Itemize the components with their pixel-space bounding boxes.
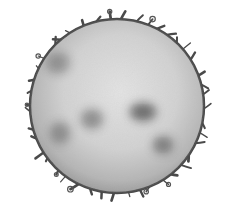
sun-illustration: Grayscale drawing of the Sun showing a m… bbox=[0, 0, 236, 206]
sun-icon bbox=[0, 0, 236, 206]
